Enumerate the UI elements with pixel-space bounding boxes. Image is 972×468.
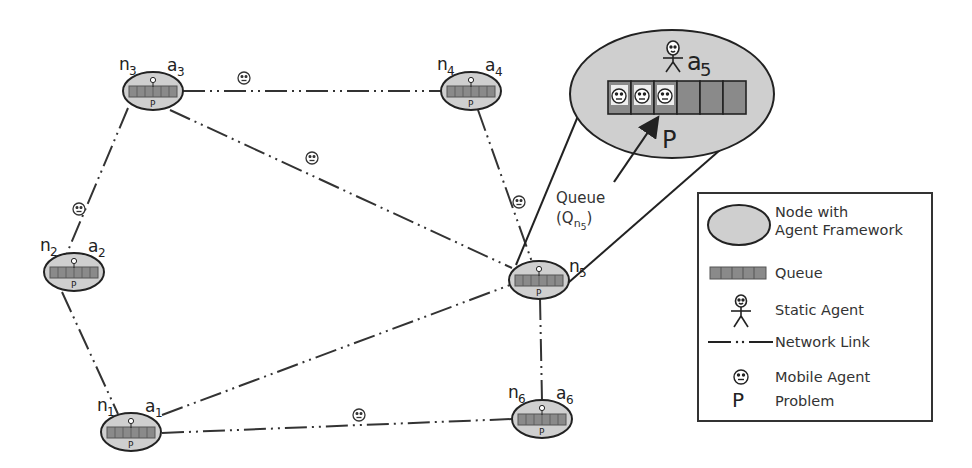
zoom-queue	[608, 81, 746, 114]
mobile-agent-icon	[732, 368, 750, 386]
mobile-agent-icon	[73, 203, 85, 215]
link-n2-n1	[62, 292, 118, 414]
node-problem-label: P	[71, 280, 77, 290]
legend-label-queue: Queue	[775, 264, 823, 282]
node-problem-label: P	[539, 427, 545, 437]
agent-label: a	[167, 55, 177, 75]
mobile-agent-icon	[612, 89, 626, 103]
callout-line2: (Qn5)	[556, 208, 605, 237]
queue-bar-icon	[50, 267, 98, 278]
zoom-problem-label: P	[662, 126, 676, 154]
legend-label-static-agent: Static Agent	[775, 301, 864, 319]
svg-text:2: 2	[50, 245, 58, 259]
node-problem-label: P	[150, 99, 156, 109]
svg-text:4: 4	[447, 64, 455, 78]
legend-label-network-link: Network Link	[775, 333, 870, 351]
link-n1-n6	[162, 419, 512, 433]
node-n2: Pn2a2	[40, 235, 106, 291]
node-n1: Pn1a1	[97, 395, 163, 451]
node-n4: Pn4a4	[437, 54, 503, 110]
mobile-agent-icon	[658, 89, 672, 103]
node-problem-label: P	[468, 99, 474, 109]
network-links	[62, 91, 542, 433]
problem-icon: P	[732, 388, 744, 412]
mobile-agents	[73, 72, 525, 421]
agent-label: a	[145, 396, 155, 416]
queue-bar-icon	[515, 275, 563, 286]
zoomed-node-n5: a 5 P	[570, 30, 774, 158]
queued-mobile-agents	[612, 89, 672, 103]
agent-label: a	[556, 383, 566, 403]
node-ellipse-icon	[706, 203, 772, 247]
queue-bar-icon	[107, 427, 155, 438]
queue-bar-icon	[447, 86, 495, 97]
svg-text:6: 6	[566, 393, 574, 407]
static-agent-icon	[729, 294, 753, 330]
svg-text:3: 3	[177, 65, 185, 79]
mobile-agent-icon	[635, 89, 649, 103]
queue-bar-icon	[129, 86, 177, 97]
svg-text:6: 6	[518, 392, 526, 406]
node-problem-label: P	[536, 288, 542, 298]
queue-bar-icon	[709, 266, 767, 280]
network-link-icon	[707, 338, 775, 346]
callout-line1: Queue	[556, 188, 605, 208]
link-n1-n5	[162, 285, 510, 415]
legend-label-node: Node with Agent Framework	[775, 203, 903, 239]
node-problem-label: P	[128, 440, 134, 450]
node-n3: Pn3a3	[119, 54, 185, 110]
mobile-agent-icon	[353, 409, 365, 421]
svg-text:3: 3	[129, 64, 137, 78]
nodes: Pn1a1Pn2a2Pn3a3Pn4a4Pn5Pn6a6	[40, 54, 587, 451]
svg-text:5: 5	[579, 266, 587, 280]
zoom-agent-sub: 5	[700, 59, 711, 80]
link-n3-n5	[170, 110, 512, 268]
svg-text:1: 1	[107, 405, 115, 419]
mobile-agent-icon	[238, 72, 250, 84]
link-n3-n2	[67, 108, 128, 253]
mobile-agent-icon	[513, 196, 525, 208]
legend-label-mobile-agent: Mobile Agent	[775, 368, 870, 386]
svg-text:2: 2	[98, 246, 106, 260]
queue-bar-icon	[518, 414, 566, 425]
agent-label: a	[485, 55, 495, 75]
mobile-agent-icon	[306, 152, 318, 164]
legend: Node with Agent Framework Queue Static A…	[697, 192, 933, 422]
legend-label-problem: Problem	[775, 392, 834, 410]
agent-label: a	[88, 236, 98, 256]
queue-callout: Queue (Qn5)	[556, 188, 605, 237]
link-n5-n6	[540, 298, 542, 401]
svg-text:1: 1	[155, 406, 163, 420]
svg-text:4: 4	[495, 65, 503, 79]
link-n4-n5	[478, 110, 532, 262]
